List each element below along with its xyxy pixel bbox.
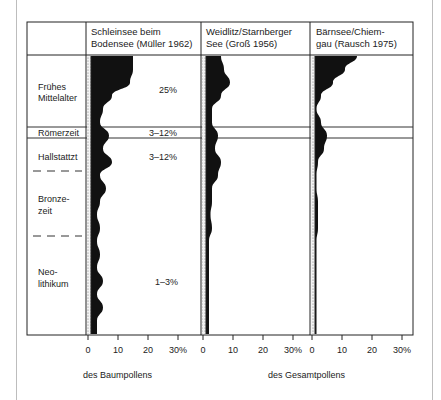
axis-tick-label: 0 (85, 345, 90, 355)
axis-tick-label: 20 (143, 345, 153, 355)
header-weidlitz-line2: See (Groß 1956) (206, 38, 277, 49)
base-band (87, 56, 91, 334)
header-baernsee-line1: Bärnsee/Chiem- (316, 26, 385, 37)
annotation-hallstatt-3-12pct: 3–12% (149, 152, 177, 162)
period-label-hallstattzt: Hallstattzt (38, 152, 78, 162)
base-band (311, 56, 315, 334)
axis-tick-label: 0 (309, 345, 314, 355)
pollen-silhouette (206, 56, 230, 334)
axis-tick-label: 10 (337, 345, 347, 355)
axis-tick-label: 30% (393, 345, 411, 355)
pollen-silhouette (91, 56, 133, 334)
xlabel-baumpollen: des Baumpollens (83, 370, 153, 380)
axis-tick-label: 30% (284, 345, 302, 355)
axis-tick-label: 0 (200, 345, 205, 355)
period-label-neolithikum-2: lithikum (38, 279, 69, 289)
period-label-bronzezeit-2: zeit (38, 206, 53, 216)
x-axes: 0102030%0102030%0102030% (85, 335, 411, 355)
period-label-fruehes-mittelalter-1: Frühes (38, 82, 67, 92)
pollen-silhouette (315, 56, 357, 334)
axis-tick-label: 10 (113, 345, 123, 355)
header-schleinsee-line1: Schleinsee beim (91, 26, 161, 37)
period-label-neolithikum-1: Neo- (38, 267, 58, 277)
base-band (202, 56, 206, 334)
header-baernsee-line2: gau (Rausch 1975) (316, 38, 397, 49)
header-weidlitz-line1: Weidlitz/Starnberger (206, 26, 292, 37)
period-label-bronzezeit-1: Bronze- (38, 194, 70, 204)
axis-tick-label: 30% (169, 345, 187, 355)
pollen-diagram: Schleinsee beim Bodensee (Müller 1962) W… (0, 0, 441, 400)
annotation-neolithic-1-3pct: 1–3% (155, 277, 178, 287)
annotation-25pct: 25% (159, 85, 177, 95)
period-label-roemerzeit: Römerzeit (38, 128, 80, 138)
header-schleinsee-line2: Bodensee (Müller 1962) (91, 38, 192, 49)
axis-tick-label: 20 (258, 345, 268, 355)
xlabel-gesamtpollen: des Gesamtpollens (268, 370, 346, 380)
annotation-roemer-3-12pct: 3–12% (149, 128, 177, 138)
period-label-fruehes-mittelalter-2: Mittelalter (38, 93, 77, 103)
axis-tick-label: 20 (367, 345, 377, 355)
pollen-curves (87, 56, 357, 334)
axis-tick-label: 10 (228, 345, 238, 355)
